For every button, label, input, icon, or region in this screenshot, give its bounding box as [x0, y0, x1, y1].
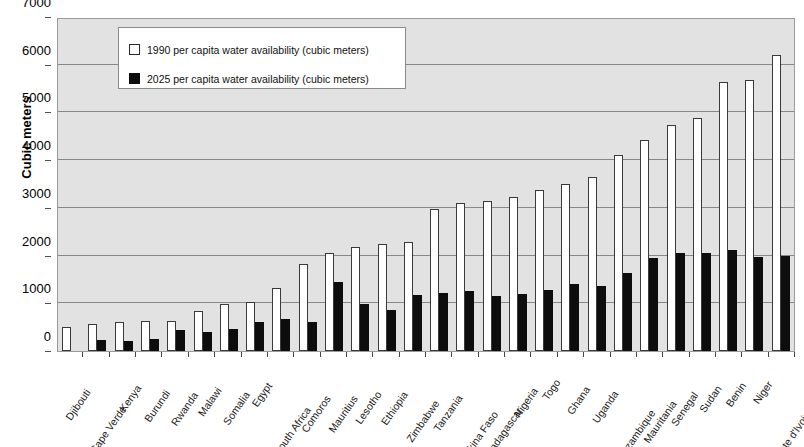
x-label-cell: South Africa	[268, 356, 294, 446]
bar-2025	[518, 294, 527, 351]
x-label-cell: Zimbabwe	[400, 356, 426, 446]
bar-2025	[492, 296, 501, 351]
bar-2025	[203, 332, 212, 351]
bar-1990	[88, 324, 97, 351]
bar-2025	[281, 319, 290, 351]
x-label-cell: Sudan	[690, 356, 716, 446]
bar-1990	[404, 242, 413, 351]
y-tick-mark	[45, 256, 51, 257]
bar-1990	[509, 197, 518, 351]
bar-1990	[194, 311, 203, 351]
water-availability-bar-chart: Cubic meters 010002000300040005000600070…	[0, 0, 804, 447]
bar-1990	[772, 55, 781, 351]
x-label-cell: Niger	[742, 356, 768, 446]
bar-1990	[272, 288, 281, 351]
y-tick-label: 7000	[1, 0, 51, 10]
bar-2025	[387, 310, 396, 351]
bar-1990	[167, 321, 176, 351]
bar-1990	[745, 80, 754, 351]
legend-label-1990: 1990 per capita water availability (cubi…	[147, 44, 369, 56]
x-label-cell: Tanzania	[426, 356, 452, 446]
bar-2025	[544, 290, 553, 351]
bar-2025	[97, 340, 106, 351]
y-tick-label: 3000	[1, 186, 51, 201]
y-tick-label: 5000	[1, 90, 51, 105]
bar-1990	[719, 82, 728, 351]
gridline	[58, 16, 794, 17]
bar-1990	[535, 190, 544, 351]
bar-group	[715, 19, 741, 351]
x-label-cell: Burundi	[136, 356, 162, 446]
bar-2025	[150, 339, 159, 351]
bar-2025	[124, 341, 133, 351]
bar-group	[557, 19, 583, 351]
x-label-cell: Burkina Faso	[452, 356, 478, 446]
bar-2025	[465, 291, 474, 351]
bar-1990	[141, 321, 150, 351]
bar-group	[662, 19, 688, 351]
bar-group	[505, 19, 531, 351]
bar-2025	[255, 322, 264, 351]
y-tick-mark	[45, 208, 51, 209]
bar-2025	[728, 250, 737, 351]
bar-group	[584, 19, 610, 351]
bar-1990	[246, 302, 255, 351]
y-tick-label: 4000	[1, 138, 51, 153]
bar-1990	[62, 327, 71, 351]
bar-group	[452, 19, 478, 351]
bar-2025	[229, 329, 238, 351]
x-label-cell: Mauritania	[637, 356, 663, 446]
bar-2025	[176, 330, 185, 351]
y-axis-tick-labels: 01000200030004000500060007000	[0, 18, 51, 352]
y-tick-mark	[45, 17, 51, 18]
bar-group	[84, 19, 110, 351]
bar-1990	[588, 177, 597, 351]
bar-1990	[456, 203, 465, 351]
y-tick-label: 1000	[1, 281, 51, 296]
bar-2025	[597, 286, 606, 351]
y-tick-mark	[45, 303, 51, 304]
x-label-cell: Nigeria	[505, 356, 531, 446]
legend-swatch-2025-icon	[129, 73, 140, 84]
bar-2025	[649, 258, 658, 351]
x-label-cell: Kenya	[110, 356, 136, 446]
x-label-cell: Mozambique	[611, 356, 637, 446]
bar-group	[741, 19, 767, 351]
x-label-cell: Cape Verde	[83, 356, 109, 446]
x-label-cell: Malawi	[189, 356, 215, 446]
bar-2025	[754, 257, 763, 351]
bar-group	[610, 19, 636, 351]
bar-group	[636, 19, 662, 351]
x-label-cell: Madagascar	[479, 356, 505, 446]
bar-2025	[702, 253, 711, 351]
bar-1990	[483, 201, 492, 351]
bar-2025	[570, 284, 579, 351]
chart-legend: 1990 per capita water availability (cubi…	[118, 27, 406, 89]
legend-item-1990: 1990 per capita water availability (cubi…	[129, 38, 395, 61]
bar-group	[689, 19, 715, 351]
x-label-cell: Egypt	[242, 356, 268, 446]
x-label-cell: Comoros	[294, 356, 320, 446]
y-tick-mark	[45, 112, 51, 113]
bar-group	[58, 19, 84, 351]
bar-1990	[640, 140, 649, 351]
bar-2025	[360, 304, 369, 351]
x-label-cell: Djibouti	[57, 356, 83, 446]
bar-2025	[413, 295, 422, 351]
x-label-cell: Benin	[716, 356, 742, 446]
bar-1990	[351, 247, 360, 351]
bar-group	[479, 19, 505, 351]
bar-2025	[623, 273, 632, 351]
bar-1990	[614, 155, 623, 351]
y-tick-mark	[45, 160, 51, 161]
bar-1990	[693, 118, 702, 351]
bar-group	[768, 19, 794, 351]
x-label-cell: Senegal	[663, 356, 689, 446]
bar-2025	[334, 282, 343, 351]
bar-group	[426, 19, 452, 351]
bar-1990	[115, 322, 124, 351]
y-tick-mark	[45, 351, 51, 352]
bar-2025	[676, 253, 685, 351]
legend-label-2025: 2025 per capita water availability (cubi…	[147, 73, 369, 85]
bar-2025	[308, 322, 317, 351]
